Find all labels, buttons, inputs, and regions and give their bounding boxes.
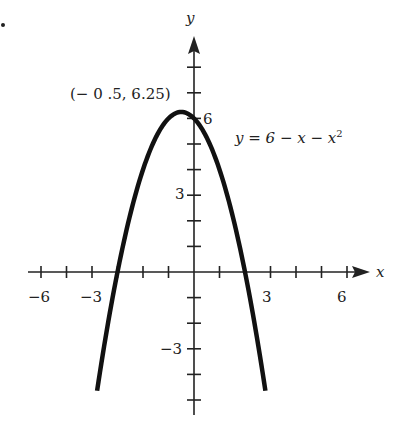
tick-label-y-3: 3: [175, 185, 185, 203]
tick-label-x-neg3: −3: [80, 288, 102, 306]
y-axis: [187, 36, 201, 415]
equation-exponent: 2: [336, 128, 342, 139]
equation-label: y = 6 − x − x2: [234, 128, 343, 147]
parabola-graph: y x −6 −3 3 6 6 3 −3 (− 0 .5, 6.25) y = …: [0, 0, 399, 435]
tick-label-x-6: 6: [337, 288, 347, 306]
tick-label-y-neg3: −3: [160, 340, 182, 358]
tick-label-x-neg6: −6: [28, 288, 50, 306]
x-axis-label: x: [376, 263, 385, 281]
tick-label-x-3: 3: [262, 288, 272, 306]
equation-minus: −: [306, 129, 328, 147]
vertex-annotation: (− 0 .5, 6.25): [70, 85, 171, 103]
x-axis: [28, 266, 370, 278]
y-axis-label: y: [185, 9, 195, 27]
tick-label-y-6: 6: [203, 110, 213, 128]
stray-dot: [1, 23, 5, 27]
equation-lhs: y = 6 −: [234, 129, 297, 147]
